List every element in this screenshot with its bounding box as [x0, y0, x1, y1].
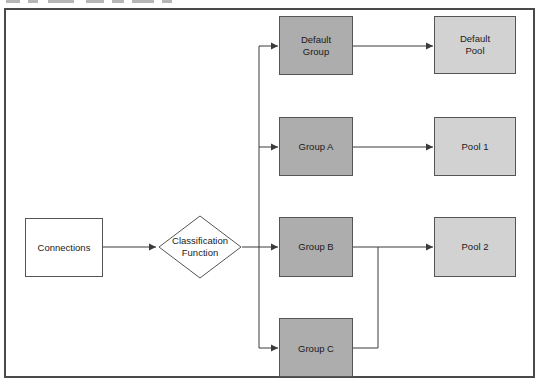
node-classification-function[interactable]: Classification Function — [158, 215, 242, 279]
node-pool-2[interactable]: Pool 2 — [434, 217, 516, 277]
scan-artifact — [86, 0, 104, 3]
scan-artifact — [162, 0, 172, 3]
scan-artifact — [132, 0, 154, 3]
node-default-group[interactable]: Default Group — [279, 16, 353, 75]
default-group-label-line2: Group — [303, 46, 329, 57]
scan-artifact — [48, 0, 74, 3]
node-group-a[interactable]: Group A — [279, 117, 353, 176]
node-group-b[interactable]: Group B — [279, 217, 353, 277]
diagram-canvas: Connections Classification Function Defa… — [0, 0, 540, 389]
node-default-group-label: Default Group — [301, 34, 331, 58]
node-connections[interactable]: Connections — [25, 218, 103, 277]
scan-artifact — [112, 0, 124, 3]
default-pool-label-line2: Pool — [465, 45, 484, 56]
node-pool-1-label: Pool 1 — [462, 141, 489, 153]
scan-artifact — [28, 0, 38, 3]
node-group-b-label: Group B — [298, 241, 333, 253]
node-connections-label: Connections — [38, 242, 91, 254]
node-group-a-label: Group A — [299, 141, 334, 153]
node-group-c-label: Group C — [298, 343, 334, 355]
node-group-c[interactable]: Group C — [279, 318, 353, 377]
node-pool-1[interactable]: Pool 1 — [434, 117, 516, 176]
node-default-pool[interactable]: Default Pool — [434, 16, 516, 74]
scan-artifact — [6, 0, 20, 3]
default-group-label-line1: Default — [301, 34, 331, 45]
node-pool-2-label: Pool 2 — [462, 241, 489, 253]
diamond-shape — [158, 215, 242, 279]
node-default-pool-label: Default Pool — [460, 33, 490, 57]
default-pool-label-line1: Default — [460, 33, 490, 44]
